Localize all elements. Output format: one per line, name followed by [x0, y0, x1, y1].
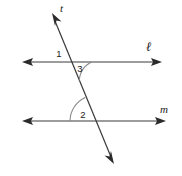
angle-1-label: 1	[56, 48, 61, 59]
angle-3-label: 3	[77, 63, 82, 74]
transversal-t-group: t	[52, 2, 114, 164]
line-l-group: ℓ	[22, 39, 162, 66]
line-m-label: m	[160, 103, 168, 115]
geometry-svg: ℓ m t 1 3 2	[0, 0, 182, 176]
line-t	[55, 21, 111, 157]
line-m-group: m	[22, 103, 168, 125]
line-l-label: ℓ	[146, 39, 152, 54]
angle-2-label: 2	[80, 109, 85, 120]
line-t-label: t	[60, 2, 64, 14]
geometry-figure: ℓ m t 1 3 2	[0, 0, 182, 176]
